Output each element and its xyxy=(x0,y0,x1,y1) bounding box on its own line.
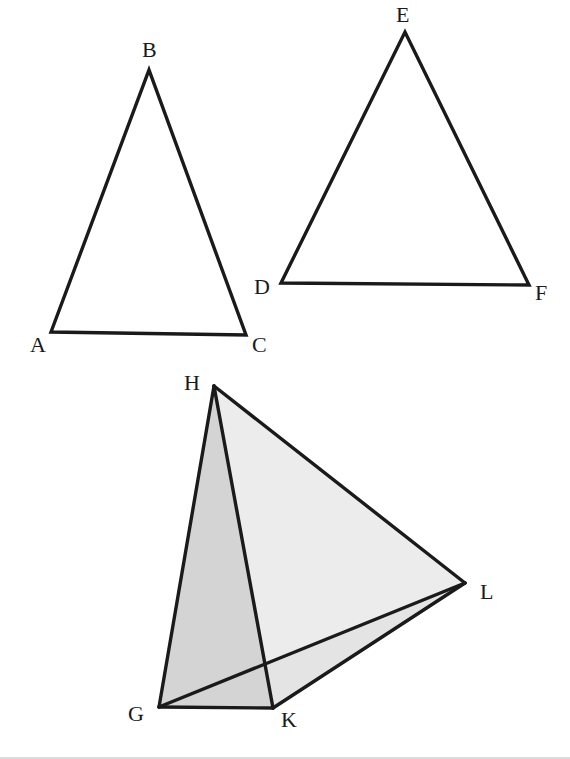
vertex-label-c: C xyxy=(252,332,267,357)
tetrahedron-ghkl: H G K L xyxy=(128,370,493,732)
geometry-figure: A B C D E F H G K L xyxy=(0,0,570,759)
triangle-abc: A B C xyxy=(30,37,267,357)
vertex-label-g: G xyxy=(128,701,144,726)
vertex-label-d: D xyxy=(254,274,270,299)
triangle-abc-outline xyxy=(51,70,246,335)
vertex-label-e: E xyxy=(396,2,409,27)
vertex-label-k: K xyxy=(281,707,297,732)
triangle-def-outline xyxy=(281,32,529,285)
vertex-label-l: L xyxy=(480,579,493,604)
edge-gk xyxy=(159,707,273,708)
vertex-label-h: H xyxy=(184,370,200,395)
vertex-label-b: B xyxy=(142,37,157,62)
vertex-label-f: F xyxy=(535,280,547,305)
triangle-def: D E F xyxy=(254,2,547,305)
vertex-label-a: A xyxy=(30,332,46,357)
